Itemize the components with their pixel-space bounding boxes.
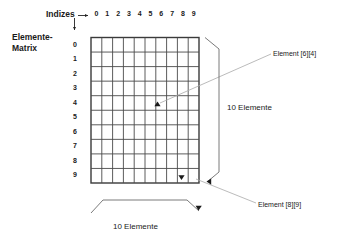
row-index-1: 1 bbox=[70, 55, 80, 62]
column-index-0: 0 bbox=[92, 10, 102, 17]
vertical-dimension-bracket bbox=[205, 38, 219, 185]
row-index-2: 2 bbox=[70, 70, 80, 77]
column-index-9: 9 bbox=[189, 10, 199, 17]
column-index-4: 4 bbox=[135, 10, 145, 17]
column-index-5: 5 bbox=[146, 10, 156, 17]
horizontal-dimension-label: 10 Elemente bbox=[113, 222, 158, 231]
leader-line-element-8-9 bbox=[196, 179, 256, 203]
row-index-3: 3 bbox=[70, 84, 80, 91]
row-index-7: 7 bbox=[70, 142, 80, 149]
column-index-2: 2 bbox=[113, 10, 123, 17]
row-index-0: 0 bbox=[70, 41, 80, 48]
vertical-dimension-label: 10 Elemente bbox=[227, 103, 272, 112]
row-index-4: 4 bbox=[70, 99, 80, 106]
row-index-9: 9 bbox=[70, 171, 80, 178]
column-index-7: 7 bbox=[167, 10, 177, 17]
row-index-8: 8 bbox=[70, 157, 80, 164]
callout-label-element-8-9: Element [8][9] bbox=[258, 201, 301, 209]
elemente-matrix-label-line2: Matrix bbox=[12, 43, 53, 54]
callout-label-element-6-4: Element [6][4] bbox=[273, 50, 316, 58]
column-index-6: 6 bbox=[156, 10, 166, 17]
horizontal-dimension-bracket bbox=[91, 200, 202, 213]
column-index-3: 3 bbox=[124, 10, 134, 17]
row-index-5: 5 bbox=[70, 113, 80, 120]
row-index-6: 6 bbox=[70, 128, 80, 135]
elemente-matrix-label: Elemente- Matrix bbox=[12, 32, 53, 53]
column-index-8: 8 bbox=[178, 10, 188, 17]
matrix-grid bbox=[91, 38, 199, 184]
column-index-1: 1 bbox=[102, 10, 112, 17]
indizes-label: Indizes bbox=[46, 10, 75, 20]
diagram-canvas: Indizes Elemente- Matrix 0 1 2 3 4 5 6 7… bbox=[0, 0, 339, 242]
elemente-matrix-label-line1: Elemente- bbox=[12, 32, 53, 43]
